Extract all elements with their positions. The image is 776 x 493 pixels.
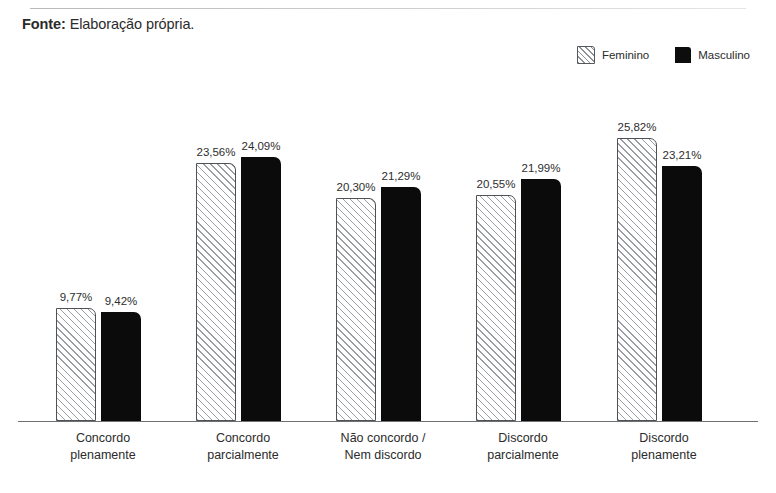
bar-wrap-masculino: 24,09% <box>241 157 281 421</box>
x-axis-baseline <box>18 421 758 422</box>
category-line-2: plenamente <box>584 447 744 464</box>
bar-group: 20,55% 21,99% <box>476 179 561 421</box>
x-axis-category-label: Não concordo / Nem discordo <box>303 430 463 465</box>
bar-wrap-feminino: 23,56% <box>196 163 236 421</box>
bar-value-label: 21,99% <box>521 162 560 174</box>
bar-group: 23,56% 24,09% <box>196 157 281 421</box>
bar-value-label: 23,21% <box>662 149 701 161</box>
category-line-2: parcialmente <box>443 447 603 464</box>
category-line-1: Concordo <box>216 431 270 445</box>
bar-group: 20,30% 21,29% <box>336 187 421 421</box>
bar-masculino[interactable] <box>662 166 702 421</box>
bar-value-label: 23,56% <box>196 146 235 158</box>
bar-masculino[interactable] <box>381 187 421 421</box>
x-axis-category-label: Concordo plenamente <box>23 430 183 465</box>
bar-group: 9,77% 9,42% <box>56 308 141 421</box>
category-line-2: parcialmente <box>163 447 323 464</box>
bar-value-label: 20,30% <box>336 181 375 193</box>
bar-value-label: 21,29% <box>381 170 420 182</box>
bar-wrap-feminino: 20,55% <box>476 195 516 421</box>
bar-wrap-masculino: 23,21% <box>662 166 702 421</box>
x-axis-category-label: Discordo plenamente <box>584 430 744 465</box>
x-axis-category-label: Concordo parcialmente <box>163 430 323 465</box>
bar-feminino[interactable] <box>196 163 236 421</box>
bar-wrap-feminino: 20,30% <box>336 198 376 421</box>
bar-value-label: 25,82% <box>617 121 656 133</box>
bar-feminino[interactable] <box>336 198 376 421</box>
bar-feminino[interactable] <box>476 195 516 421</box>
bar-masculino[interactable] <box>241 157 281 421</box>
category-line-2: Nem discordo <box>303 447 463 464</box>
category-line-1: Não concordo / <box>341 431 426 445</box>
bar-value-label: 24,09% <box>241 140 280 152</box>
x-axis-category-label: Discordo parcialmente <box>443 430 603 465</box>
bar-wrap-masculino: 21,29% <box>381 187 421 421</box>
bar-feminino[interactable] <box>56 308 96 421</box>
chart-plot-area: 9,77% 9,42% 23,56% 24,09% 20,30% 21,29% <box>0 0 776 493</box>
category-line-1: Discordo <box>498 431 547 445</box>
bar-value-label: 9,77% <box>60 291 93 303</box>
bar-masculino[interactable] <box>521 179 561 421</box>
category-line-2: plenamente <box>23 447 183 464</box>
category-line-1: Concordo <box>76 431 130 445</box>
category-line-1: Discordo <box>639 431 688 445</box>
bar-wrap-feminino: 25,82% <box>617 138 657 421</box>
bar-value-label: 9,42% <box>105 295 138 307</box>
bar-wrap-feminino: 9,77% <box>56 308 96 421</box>
bar-value-label: 20,55% <box>476 178 515 190</box>
bar-wrap-masculino: 21,99% <box>521 179 561 421</box>
bar-feminino[interactable] <box>617 138 657 421</box>
bar-group: 25,82% 23,21% <box>617 138 702 421</box>
bar-masculino[interactable] <box>101 312 141 421</box>
bar-wrap-masculino: 9,42% <box>101 312 141 421</box>
